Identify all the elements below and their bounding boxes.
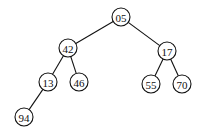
tree-edge [128,22,160,45]
tree-node: 94 [15,108,33,126]
node-label: 94 [19,112,31,124]
node-label: 46 [74,77,86,89]
tree-node: 70 [173,75,191,93]
node-label: 42 [63,43,74,55]
tree-node: 17 [158,42,176,60]
tree-edge [53,56,64,74]
tree-edge [155,59,163,76]
tree-nodes: 0542171346557094 [15,8,191,126]
node-label: 17 [162,46,174,58]
tree-edge [76,22,113,44]
node-label: 55 [146,79,158,91]
tree-node: 13 [39,73,57,91]
node-label: 70 [177,79,189,91]
tree-node: 46 [70,73,88,91]
tree-node: 42 [59,39,77,57]
tree-node: 05 [112,8,130,26]
tree-edge [71,57,76,74]
node-label: 13 [43,77,55,89]
tree-node: 55 [142,75,160,93]
tree-edge [171,59,179,76]
tree-edge [29,89,43,109]
tree-diagram: 0542171346557094 [0,0,204,136]
tree-edges [29,22,178,110]
node-label: 05 [116,12,128,24]
